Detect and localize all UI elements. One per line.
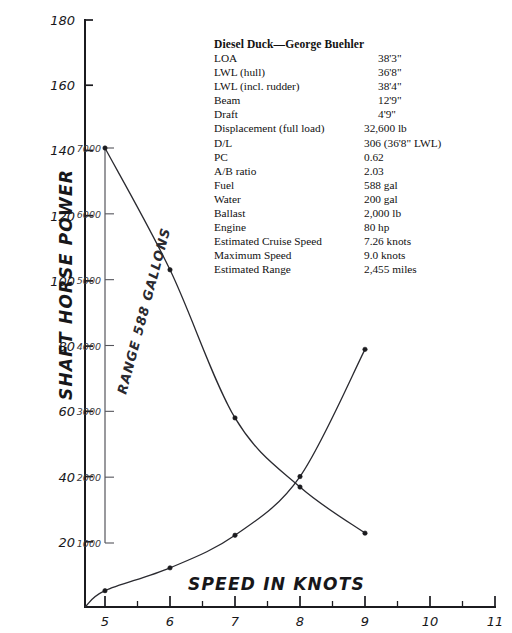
spec-row: Draft4'9": [214, 107, 500, 121]
spec-row-value: 2.03: [364, 164, 500, 178]
spec-row-value: 38'3": [364, 51, 500, 65]
x-axis-tick-label: 6: [166, 614, 174, 629]
x-axis-title: SPEED IN KNOTS: [188, 574, 365, 594]
range-axis-ticks: [105, 148, 114, 543]
y-axis-tick-label: 40: [58, 470, 75, 485]
spec-row-label: Maximum Speed: [214, 248, 364, 262]
spec-row: Ballast2,000 lb: [214, 206, 500, 220]
y-axis-tick-label: 180: [50, 13, 75, 28]
range-axis-tick-label: 5000: [77, 275, 101, 286]
data-point: [363, 531, 367, 535]
spec-row-label: Estimated Cruise Speed: [214, 234, 364, 248]
chart-figure: Diesel Duck—George Buehler LOA38'3"LWL (…: [0, 0, 512, 633]
spec-row: LOA38'3": [214, 51, 500, 65]
spec-row-label: Engine: [214, 220, 364, 234]
spec-row-label: Beam: [214, 93, 364, 107]
specification-table: Diesel Duck—George Buehler LOA38'3"LWL (…: [214, 38, 500, 277]
spec-row-label: A/B ratio: [214, 164, 364, 178]
spec-row-value: 306 (36'8" LWL): [364, 136, 500, 150]
spec-row-label: Estimated Range: [214, 262, 364, 276]
spec-row-value: 0.62: [364, 150, 500, 164]
shaft-horse-power-curve-markers: [103, 347, 367, 593]
spec-row: Maximum Speed9.0 knots: [214, 248, 500, 262]
spec-row-label: LWL (hull): [214, 65, 364, 79]
range-axis-tick-label: 6000: [77, 209, 101, 220]
x-axis-tick-labels: 567891011: [101, 614, 503, 629]
spec-row-label: Fuel: [214, 178, 364, 192]
data-point: [298, 485, 302, 489]
spec-row-value: 2,455 miles: [364, 262, 500, 276]
data-point: [168, 268, 172, 272]
spec-row-value: 2,000 lb: [364, 206, 500, 220]
spec-row-value: 12'9": [364, 93, 500, 107]
data-point: [298, 474, 302, 478]
spec-row-label: D/L: [214, 136, 364, 150]
spec-row: Estimated Cruise Speed7.26 knots: [214, 234, 500, 248]
y-axis-title: SHAFT HORSE POWER: [56, 169, 76, 400]
spec-row: PC0.62: [214, 150, 500, 164]
y-axis-tick-label: 20: [58, 535, 75, 550]
spec-row: LWL (hull)36'8": [214, 65, 500, 79]
spec-row-value: 80 hp: [364, 220, 500, 234]
spec-row: Engine80 hp: [214, 220, 500, 234]
spec-row-value: 7.26 knots: [364, 234, 500, 248]
range-axis-tick-label: 2000: [77, 472, 101, 483]
spec-row-value: 588 gal: [364, 178, 500, 192]
y-axis-tick-label: 160: [50, 78, 75, 93]
spec-row-label: Draft: [214, 107, 364, 121]
data-point: [363, 347, 367, 351]
range-axis-title: RANGE 588 GALLONS: [114, 226, 173, 396]
spec-row: Estimated Range2,455 miles: [214, 262, 500, 276]
x-axis-tick-label: 11: [487, 614, 504, 629]
x-axis-tick-label: 9: [361, 614, 369, 629]
y-axis-tick-label: 60: [58, 404, 75, 419]
spec-row-value: 4'9": [364, 107, 500, 121]
spec-row-value: 36'8": [364, 65, 500, 79]
spec-table-title: Diesel Duck—George Buehler: [214, 38, 500, 50]
range-axis-tick-labels: 1000200030004000500060007000: [77, 143, 101, 549]
spec-row: Displacement (full load)32,600 lb: [214, 121, 500, 135]
data-point: [233, 533, 237, 537]
data-point: [233, 416, 237, 420]
x-axis-tick-label: 8: [296, 614, 304, 629]
spec-table-rows: LOA38'3"LWL (hull)36'8"LWL (incl. rudder…: [214, 51, 500, 277]
spec-row-value: 9.0 knots: [364, 248, 500, 262]
x-axis-tick-label: 5: [101, 614, 109, 629]
x-axis-tick-label: 10: [422, 614, 439, 629]
spec-row-label: Water: [214, 192, 364, 206]
spec-row: Beam12'9": [214, 93, 500, 107]
range-axis-tick-label: 4000: [77, 341, 101, 352]
data-point: [103, 588, 107, 592]
spec-row-value: 32,600 lb: [364, 121, 500, 135]
spec-row: A/B ratio2.03: [214, 164, 500, 178]
spec-row-value: 200 gal: [364, 192, 500, 206]
spec-row-label: LOA: [214, 51, 364, 65]
spec-row-label: PC: [214, 150, 364, 164]
data-point: [103, 146, 107, 150]
x-axis-tick-label: 7: [231, 614, 240, 629]
spec-row: LWL (incl. rudder)38'4": [214, 79, 500, 93]
spec-row-value: 38'4": [364, 79, 500, 93]
spec-row-label: Ballast: [214, 206, 364, 220]
spec-row: D/L306 (36'8" LWL): [214, 136, 500, 150]
range-axis-tick-label: 1000: [77, 538, 101, 549]
range-axis-tick-label: 7000: [77, 143, 101, 154]
range-axis-tick-label: 3000: [77, 406, 101, 417]
spec-row: Fuel588 gal: [214, 178, 500, 192]
spec-row: Water200 gal: [214, 192, 500, 206]
y-axis-tick-label: 140: [50, 143, 75, 158]
spec-row-label: Displacement (full load): [214, 121, 364, 135]
x-axis-ticks: [105, 596, 495, 607]
spec-row-label: LWL (incl. rudder): [214, 79, 364, 93]
data-point: [168, 566, 172, 570]
